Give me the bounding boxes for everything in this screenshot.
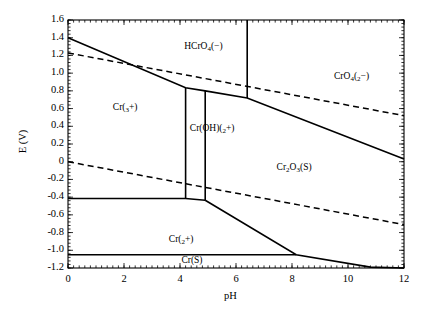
boundary-cr2o3-cr2-boundary	[205, 200, 404, 268]
boundary-water-lower-stability-line	[68, 162, 404, 225]
pourbaix-diagram-figure: 1.61.41.21.00.80.60.40.20-0.2-0.4-0.6-0.…	[0, 0, 429, 309]
y-tick-label: 0	[59, 155, 64, 166]
phase-boundary-lines	[68, 20, 404, 268]
y-tick-label: -0.2	[47, 172, 64, 183]
region-label-cr2o3: Cr2O3(S)	[277, 162, 312, 174]
y-tick-label: -0.4	[47, 190, 64, 201]
axis-ticks	[68, 20, 404, 268]
y-tick-label: -0.6	[47, 208, 64, 219]
y-tick-label: -1.2	[47, 261, 64, 272]
x-tick-label: 10	[328, 273, 368, 284]
region-label-cr2plus: Cr(2+)	[169, 234, 194, 246]
y-tick-label: 1.6	[51, 13, 64, 24]
x-tick-label: 0	[48, 273, 88, 284]
plot-frame	[68, 20, 404, 268]
y-tick-label: 0.2	[51, 137, 64, 148]
y-axis-title: E (V)	[17, 122, 28, 162]
x-axis-title: pH	[224, 290, 237, 301]
boundary-cr3-cr2-horizontal	[68, 198, 205, 200]
x-tick-label: 6	[216, 273, 256, 284]
region-label-hcro4: HCrO4(−)	[184, 41, 222, 53]
y-tick-label: -1.0	[47, 243, 64, 254]
y-tick-label: 0.4	[51, 119, 64, 130]
y-tick-label: 1.4	[51, 31, 64, 42]
y-tick-label: 1.0	[51, 66, 64, 77]
region-label-cro4: CrO4(2−)	[334, 71, 369, 83]
y-tick-label: 0.8	[51, 84, 64, 95]
x-tick-label: 8	[272, 273, 312, 284]
y-tick-label: 1.2	[51, 48, 64, 59]
y-tick-label: -0.8	[47, 226, 64, 237]
x-tick-label: 4	[160, 273, 200, 284]
region-label-crs: Cr(S)	[181, 255, 202, 265]
x-tick-label: 12	[384, 273, 424, 284]
x-tick-label: 2	[104, 273, 144, 284]
region-label-cr3plus: Cr(3+)	[113, 102, 138, 114]
region-label-croh2plus: Cr(OH)(2+)	[190, 123, 235, 135]
y-tick-label: 0.6	[51, 102, 64, 113]
boundary-hcro4-cr3-boundary	[68, 38, 404, 159]
